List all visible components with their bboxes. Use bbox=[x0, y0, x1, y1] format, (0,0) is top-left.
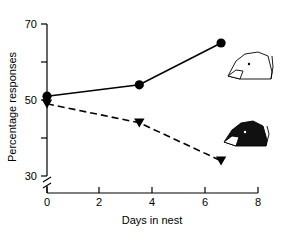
chart-figure: 70 50 30 Percentage responses 0 2 4 6 8 … bbox=[0, 0, 284, 232]
x-tick-label-0: 0 bbox=[44, 196, 50, 208]
data-point bbox=[135, 80, 144, 89]
data-point bbox=[42, 92, 51, 101]
data-point bbox=[216, 157, 226, 166]
y-tick-label-30: 30 bbox=[25, 170, 37, 182]
series-black-head-markers bbox=[42, 100, 226, 166]
black-head-icon bbox=[224, 121, 269, 146]
series-black-head-line bbox=[47, 104, 221, 161]
white-head-icon bbox=[228, 52, 273, 79]
data-point bbox=[216, 38, 225, 47]
x-tick-label-6: 6 bbox=[202, 196, 208, 208]
y-axis-title: Percentage responses bbox=[6, 51, 18, 162]
x-axis-title: Days in nest bbox=[122, 214, 183, 226]
x-tick-label-2: 2 bbox=[96, 196, 102, 208]
x-tick-label-8: 8 bbox=[255, 196, 261, 208]
x-tick-label-4: 4 bbox=[149, 196, 155, 208]
y-tick-label-70: 70 bbox=[25, 18, 37, 30]
line-chart: 70 50 30 Percentage responses 0 2 4 6 8 … bbox=[0, 0, 284, 232]
y-tick-label-50: 50 bbox=[25, 94, 37, 106]
series-white-head-markers bbox=[42, 38, 225, 100]
series-white-head-line bbox=[47, 43, 221, 96]
data-point bbox=[134, 119, 144, 128]
